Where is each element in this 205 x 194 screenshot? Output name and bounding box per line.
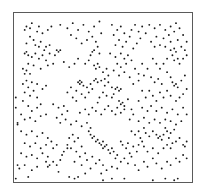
data-point — [107, 105, 109, 107]
data-point — [77, 58, 79, 60]
data-point — [45, 46, 47, 48]
data-point — [159, 135, 161, 137]
data-point — [175, 157, 177, 159]
data-point — [20, 152, 22, 154]
data-point — [36, 166, 38, 168]
data-point — [163, 147, 165, 149]
data-point — [45, 161, 47, 163]
data-point — [123, 157, 125, 159]
data-point — [166, 58, 168, 60]
data-point — [52, 63, 54, 65]
data-point — [58, 51, 60, 53]
data-point — [45, 85, 47, 87]
data-point — [171, 142, 173, 144]
data-point — [106, 144, 108, 146]
data-point — [154, 81, 156, 83]
data-point — [155, 100, 157, 102]
data-point — [24, 29, 26, 31]
data-point — [84, 63, 86, 65]
data-point — [159, 68, 161, 70]
data-point — [152, 157, 154, 159]
data-point — [100, 113, 102, 115]
data-point — [97, 102, 99, 104]
data-points — [15, 21, 188, 182]
data-point — [177, 86, 179, 88]
data-point — [138, 144, 140, 146]
data-point — [17, 122, 19, 124]
data-point — [79, 156, 81, 158]
data-point — [33, 90, 35, 92]
data-point — [157, 137, 159, 139]
data-point — [139, 137, 141, 139]
data-point — [66, 147, 68, 149]
data-point — [186, 88, 188, 90]
data-point — [132, 48, 134, 50]
data-point — [147, 110, 149, 112]
data-point — [132, 83, 134, 85]
data-point — [82, 85, 84, 87]
data-point — [155, 36, 157, 38]
data-point — [182, 107, 184, 109]
data-point — [68, 66, 70, 68]
data-point — [59, 49, 61, 51]
data-point — [79, 83, 81, 85]
data-point — [27, 54, 29, 56]
data-point — [136, 151, 138, 153]
data-point — [141, 107, 143, 109]
data-point — [173, 48, 175, 50]
data-point — [161, 83, 163, 85]
data-point — [15, 97, 17, 99]
data-point — [40, 103, 42, 105]
data-point — [123, 178, 125, 180]
data-point — [36, 135, 38, 137]
data-point — [182, 144, 184, 146]
data-point — [159, 24, 161, 26]
data-point — [104, 85, 106, 87]
data-point — [131, 156, 133, 158]
data-point — [113, 34, 115, 36]
data-point — [120, 112, 122, 114]
data-point — [29, 117, 31, 119]
data-point — [120, 88, 122, 90]
data-point — [123, 32, 125, 34]
data-point — [84, 173, 86, 175]
data-point — [86, 122, 88, 124]
data-point — [97, 81, 99, 83]
data-point — [50, 26, 52, 28]
data-point — [26, 80, 28, 82]
data-point — [47, 137, 49, 139]
data-point — [66, 144, 68, 146]
data-point — [86, 86, 88, 88]
data-point — [88, 113, 90, 115]
data-point — [95, 68, 97, 70]
data-point — [123, 71, 125, 73]
data-point — [127, 162, 129, 164]
data-point — [100, 173, 102, 175]
data-point — [166, 161, 168, 163]
data-point — [59, 122, 61, 124]
data-point — [77, 176, 79, 178]
data-point — [91, 137, 93, 139]
data-point — [111, 178, 113, 180]
data-point — [107, 81, 109, 83]
data-point — [90, 83, 92, 85]
data-point — [40, 147, 42, 149]
data-point — [177, 178, 179, 180]
data-point — [22, 83, 24, 85]
data-point — [81, 93, 83, 95]
data-point — [163, 37, 165, 39]
data-point — [100, 144, 102, 146]
data-point — [155, 134, 157, 136]
data-point — [45, 113, 47, 115]
data-point — [36, 31, 38, 33]
data-point — [34, 120, 36, 122]
data-point — [113, 151, 115, 153]
data-point — [100, 80, 102, 82]
data-point — [88, 59, 90, 61]
data-point — [31, 56, 33, 58]
data-point — [122, 144, 124, 146]
data-point — [113, 70, 115, 72]
data-point — [171, 108, 173, 110]
data-point — [122, 102, 124, 104]
data-point — [168, 34, 170, 36]
